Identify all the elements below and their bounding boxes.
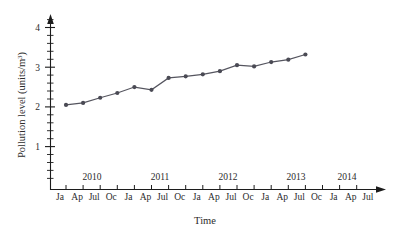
data-point bbox=[149, 88, 153, 92]
y-tick-label-1: 1 bbox=[35, 142, 40, 152]
year-label-2010: 2010 bbox=[83, 172, 102, 182]
x-tick-label-4: Ja bbox=[124, 192, 133, 202]
x-tick-label-12: Ja bbox=[261, 192, 270, 202]
x-tick-label-2: Jul bbox=[89, 192, 100, 202]
x-tick-label-14: Jul bbox=[294, 192, 305, 202]
x-tick-label-0: Ja bbox=[56, 192, 65, 202]
data-point bbox=[252, 64, 256, 68]
x-tick-label-9: Ap bbox=[208, 192, 220, 202]
data-point bbox=[235, 63, 239, 67]
x-tick-label-13: Ap bbox=[276, 192, 288, 202]
x-axis-title: Time bbox=[194, 215, 216, 226]
x-tick-label-5: Ap bbox=[140, 192, 152, 202]
svg-text:Pollution level (units/m3): Pollution level (units/m3) bbox=[16, 51, 29, 158]
y-tick-label-4: 4 bbox=[35, 23, 40, 33]
x-tick-label-17: Ap bbox=[345, 192, 357, 202]
y-axis-arrow-icon bbox=[47, 14, 54, 24]
x-tick-label-8: Ja bbox=[193, 192, 202, 202]
y-tick-label-3: 3 bbox=[35, 63, 40, 73]
x-tick-label-10: Jul bbox=[225, 192, 236, 202]
x-tick-label-18: Jul bbox=[362, 192, 373, 202]
x-axis-arrow-icon bbox=[376, 186, 386, 193]
y-axis-title-base: Pollution level (units/m bbox=[16, 59, 28, 158]
year-label-2012: 2012 bbox=[219, 172, 238, 182]
year-label-2013: 2013 bbox=[287, 172, 306, 182]
x-tick-label-15: Oc bbox=[311, 192, 322, 202]
x-tick-label-1: Ap bbox=[71, 192, 83, 202]
data-point bbox=[303, 52, 307, 56]
x-axis-ticks bbox=[66, 185, 357, 190]
data-point bbox=[167, 76, 171, 80]
x-tick-label-6: Jul bbox=[157, 192, 168, 202]
pollution-series-markers bbox=[64, 52, 308, 107]
data-point bbox=[201, 72, 205, 76]
x-tick-label-16: Ja bbox=[330, 192, 339, 202]
data-point bbox=[64, 103, 68, 107]
data-point bbox=[115, 91, 119, 95]
data-point bbox=[184, 74, 188, 78]
x-axis-year-labels: 2010 2011 2012 2013 2014 bbox=[83, 172, 357, 182]
x-axis-month-labels: Ja Ap Jul Oc Ja Ap Jul Oc Ja Ap Jul Oc J… bbox=[56, 192, 374, 202]
y-axis bbox=[47, 14, 54, 190]
data-point bbox=[81, 101, 85, 105]
y-tick-label-2: 2 bbox=[35, 102, 40, 112]
y-axis-title: Pollution level (units/m3) bbox=[16, 51, 29, 158]
x-tick-label-3: Oc bbox=[106, 192, 117, 202]
y-axis-minor-ticks bbox=[47, 20, 54, 179]
data-point bbox=[132, 85, 136, 89]
data-point bbox=[98, 96, 102, 100]
year-label-2011: 2011 bbox=[151, 172, 170, 182]
data-point bbox=[286, 58, 290, 62]
x-tick-label-7: Oc bbox=[174, 192, 185, 202]
y-axis-title-close: ) bbox=[16, 51, 28, 55]
year-label-2014: 2014 bbox=[338, 172, 357, 182]
data-point bbox=[269, 60, 273, 64]
x-tick-label-11: Oc bbox=[243, 192, 254, 202]
data-point bbox=[218, 69, 222, 73]
chart-canvas: 4 3 2 1 Pollution level (units/m3) bbox=[0, 0, 405, 237]
pollution-level-line-chart: 4 3 2 1 Pollution level (units/m3) bbox=[0, 0, 405, 237]
